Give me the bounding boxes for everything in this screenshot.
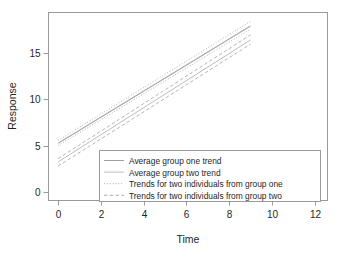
y-axis-title: Response <box>6 82 18 129</box>
data-series-line <box>58 21 250 140</box>
data-series-line <box>58 26 250 143</box>
y-axis-tick-labels: 051015 <box>29 48 41 198</box>
x-axis-tick-labels: 024681012 <box>56 209 322 220</box>
legend-label: Trends for two individuals from group on… <box>129 179 283 189</box>
data-series-line <box>58 29 250 145</box>
data-series-group <box>58 21 250 166</box>
y-tick-label: 15 <box>29 48 41 59</box>
x-tick-label: 8 <box>227 209 233 220</box>
chart-figure: 051015 024681012 Time Response Average g… <box>0 0 347 260</box>
x-tick-label: 0 <box>56 209 62 220</box>
data-series-line <box>58 44 250 166</box>
data-series-line <box>58 40 250 162</box>
x-tick-label: 2 <box>99 209 105 220</box>
y-axis-ticks <box>44 54 49 193</box>
chart-legend: Average group one trendAverage group two… <box>100 151 321 202</box>
x-tick-label: 6 <box>184 209 190 220</box>
legend-label: Average group one trend <box>129 156 222 166</box>
x-axis-title: Time <box>177 233 200 245</box>
data-series-line <box>58 35 250 159</box>
legend-label: Average group two trend <box>129 168 221 178</box>
y-tick-label: 10 <box>29 94 41 105</box>
legend-label: Trends for two individuals from group tw… <box>129 191 282 201</box>
x-tick-label: 4 <box>142 209 148 220</box>
x-tick-label: 10 <box>267 209 279 220</box>
y-tick-label: 0 <box>35 187 41 198</box>
y-tick-label: 5 <box>35 141 41 152</box>
x-tick-label: 12 <box>310 209 322 220</box>
plot-canvas: 051015 024681012 Time Response Average g… <box>0 0 347 260</box>
